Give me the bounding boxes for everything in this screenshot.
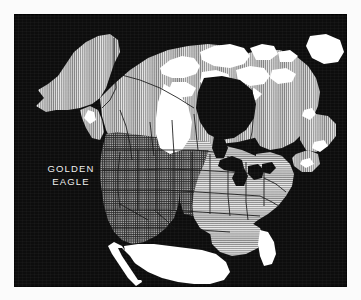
range-map-panel: GOLDEN EAGLE [14,14,347,287]
page-background: GOLDEN EAGLE [0,0,361,300]
north-america-range-map [14,14,347,287]
